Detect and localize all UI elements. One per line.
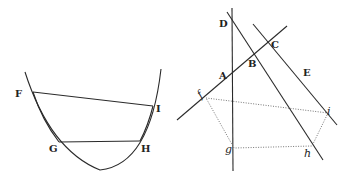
- parabola-figure: F I G H: [15, 69, 161, 170]
- label-E: E: [303, 67, 311, 78]
- label-D: D: [219, 18, 228, 29]
- label-f: f: [194, 87, 208, 101]
- vertical-line-DA: [232, 8, 233, 171]
- label-I: I: [156, 103, 161, 114]
- label-h: h: [304, 147, 311, 160]
- line-D-B: [227, 12, 323, 160]
- chord-GH: [59, 141, 140, 142]
- label-i: i: [327, 105, 331, 118]
- label-G: G: [49, 143, 58, 154]
- parabola-curve: [25, 69, 161, 170]
- chord-FI: [33, 92, 153, 106]
- diagram-canvas: F I G H D A B C E f i g h: [0, 0, 355, 181]
- label-g: g: [225, 143, 232, 156]
- label-B: B: [248, 58, 256, 69]
- inner-arc-right: [140, 106, 153, 141]
- lines-figure: D A B C E f i g h: [177, 8, 337, 171]
- label-C: C: [271, 39, 279, 50]
- label-A: A: [218, 70, 227, 81]
- label-H: H: [141, 143, 150, 154]
- label-F: F: [15, 88, 22, 99]
- line-C-E: [253, 24, 337, 125]
